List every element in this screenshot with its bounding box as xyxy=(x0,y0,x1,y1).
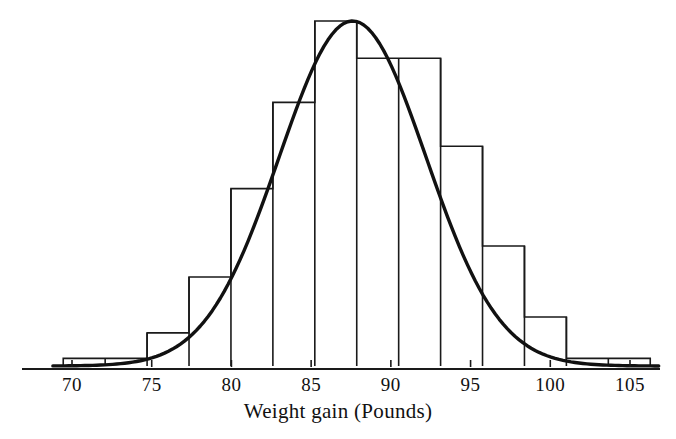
x-axis-tick-label: 85 xyxy=(301,374,321,396)
x-axis-title: Weight gain (Pounds) xyxy=(0,399,676,424)
x-axis-tick-label: 100 xyxy=(535,374,565,396)
bars-group xyxy=(63,21,650,366)
x-axis-tick-label: 75 xyxy=(142,374,162,396)
x-axis-tick-label: 80 xyxy=(221,374,241,396)
x-axis-tick-label: 70 xyxy=(62,374,82,396)
x-axis-tick-label: 95 xyxy=(461,374,481,396)
x-axis-tick-label: 105 xyxy=(615,374,645,396)
x-axis-tick-label: 90 xyxy=(381,374,401,396)
histogram-figure: 707580859095100105 Weight gain (Pounds) xyxy=(0,0,676,439)
histogram-plot-canvas xyxy=(0,0,676,439)
